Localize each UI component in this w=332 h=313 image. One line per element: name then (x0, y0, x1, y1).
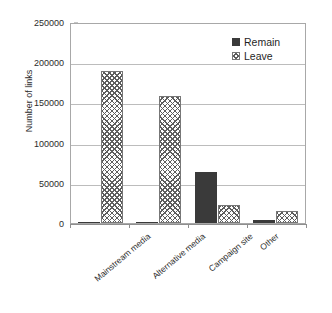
x-tick-mark (306, 224, 307, 228)
x-tick-label: Other (257, 231, 280, 252)
legend-swatch-icon (232, 52, 240, 60)
legend-swatch-icon (232, 38, 240, 46)
x-tick-mark (70, 224, 71, 228)
x-axis-tick-labels: Mainstream mediaAlternative mediaCampaig… (0, 0, 332, 313)
legend-entry[interactable]: Remain (232, 36, 280, 48)
legend-label: Leave (244, 50, 273, 62)
x-tick-mark (129, 224, 130, 228)
x-tick-label: Mainstream media (92, 231, 152, 284)
legend-label: Remain (244, 36, 280, 48)
legend-entry[interactable]: Leave (232, 50, 280, 62)
x-tick-mark (247, 224, 248, 228)
x-tick-mark (188, 224, 189, 228)
bar-chart-figure: Number of links 050000100000150000200000… (0, 0, 332, 313)
x-tick-label: Campaign site (206, 231, 254, 274)
x-tick-label: Alternative media (150, 231, 207, 281)
chart-legend: RemainLeave (232, 36, 280, 62)
